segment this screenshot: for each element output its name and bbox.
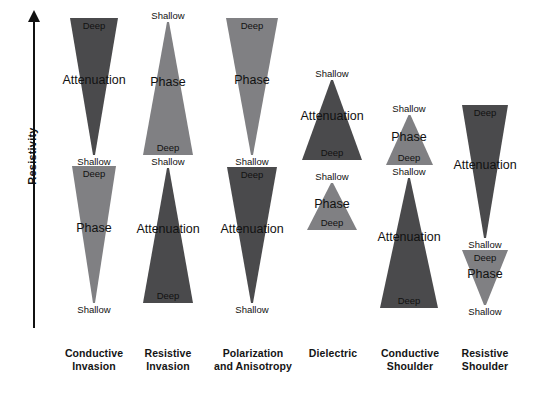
caption-line-1: Resistive	[437, 347, 533, 360]
label-bottom-polarization-and-anisotropy-1: Shallow	[202, 304, 302, 315]
label-bottom-resistive-shoulder-0: Shallow	[435, 239, 535, 250]
diagram-canvas: Resistivity DeepShallowAttenuationDeepSh…	[0, 0, 537, 397]
triangle-dielectric-phase	[307, 183, 357, 230]
triangle-conductive-shoulder-phase	[386, 115, 433, 165]
label-bottom-resistive-shoulder-1: Shallow	[435, 306, 535, 317]
label-top-resistive-invasion-0: Shallow	[118, 10, 218, 21]
triangle-polarization-and-anisotropy-phase	[226, 18, 278, 155]
triangle-conductive-shoulder-attenuation	[380, 178, 438, 308]
triangle-dielectric-attenuation	[302, 80, 362, 160]
caption-line-2: Shoulder	[437, 360, 533, 373]
triangle-resistive-shoulder-phase	[462, 250, 508, 305]
label-top-conductive-shoulder-0: Shallow	[359, 103, 459, 114]
label-top-resistive-invasion-1: Shallow	[118, 156, 218, 167]
triangle-resistive-invasion-attenuation	[143, 168, 193, 303]
triangle-resistive-invasion-phase	[143, 22, 193, 155]
label-bottom-polarization-and-anisotropy-0: Shallow	[202, 156, 302, 167]
triangle-resistive-shoulder-attenuation	[462, 105, 508, 238]
label-top-dielectric-0: Shallow	[282, 68, 382, 79]
label-bottom-conductive-invasion-1: Shallow	[44, 304, 144, 315]
label-top-dielectric-1: Shallow	[282, 171, 382, 182]
column-caption-resistive-shoulder: ResistiveShoulder	[437, 347, 533, 373]
caption-line-2: and Anisotropy	[197, 360, 309, 373]
label-top-conductive-shoulder-1: Shallow	[359, 166, 459, 177]
triangle-conductive-invasion-phase	[72, 166, 116, 303]
triangle-polarization-and-anisotropy-attenuation	[227, 167, 277, 303]
triangle-conductive-invasion-attenuation	[70, 18, 118, 155]
axis-label: Resistivity	[26, 106, 38, 206]
